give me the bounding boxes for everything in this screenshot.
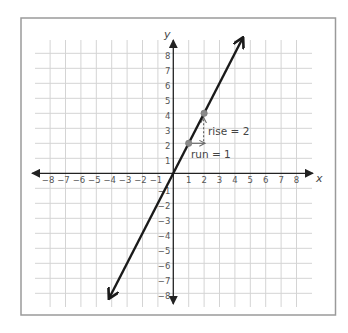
data-point [186,140,192,146]
y-tick-label: −7 [158,276,171,286]
coordinate-plane-chart: −8−7−6−5−4−3−2−112345678 −8−7−6−5−4−3−2−… [0,0,348,333]
run-label: run = 1 [191,148,231,160]
x-tick-label: −6 [73,175,86,185]
x-tick-label: −1 [150,175,163,185]
data-point [201,110,207,116]
x-tick-label: −8 [42,175,55,185]
chart-frame [21,18,336,315]
x-tick-label: −4 [103,175,116,185]
y-tick-label: 8 [165,51,170,61]
x-tick-label: −3 [119,175,132,185]
y-axis-label: y [163,28,171,41]
y-tick-label: 6 [165,81,170,91]
x-tick-label: 2 [201,175,206,185]
x-axis-label: x [315,172,323,185]
y-tick-label: 5 [165,96,170,106]
x-tick-label: 5 [248,175,253,185]
x-tick-label: 1 [186,175,191,185]
x-tick-label: 6 [263,175,268,185]
x-tick-label: −2 [134,175,147,185]
x-tick-label: −5 [88,175,101,185]
y-tick-label: −6 [158,261,171,271]
y-tick-label: 1 [165,156,170,166]
y-tick-label: −2 [158,201,171,211]
y-tick-label: −3 [158,216,171,226]
x-tick-label: 7 [278,175,283,185]
x-tick-label: 8 [294,175,299,185]
y-tick-label: −8 [158,291,171,301]
y-tick-label: 7 [165,66,170,76]
y-tick-label: 4 [165,111,170,121]
y-tick-label: −5 [158,246,171,256]
x-tick-label: 4 [232,175,237,185]
x-tick-label: 3 [217,175,222,185]
rise-label: rise = 2 [208,125,249,137]
y-tick-label: −4 [158,231,171,241]
x-tick-label: −7 [57,175,70,185]
y-tick-label: 3 [165,126,170,136]
y-tick-label: 2 [165,141,170,151]
